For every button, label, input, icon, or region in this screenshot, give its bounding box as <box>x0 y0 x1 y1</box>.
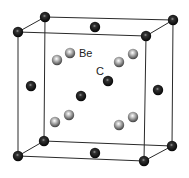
carbon-atom-corner-back-bottom-right <box>167 141 177 151</box>
carbon-atom-corner-front-bottom-right <box>139 156 149 166</box>
carbon-atom-corner-front-top-left <box>13 27 23 37</box>
beryllium-atom-be-upper-right-front <box>114 57 124 67</box>
label-be: Be <box>79 47 92 59</box>
carbon-atom-face-top <box>90 22 100 32</box>
carbon-atom-face-bottom <box>90 148 100 158</box>
carbon-atom-face-front <box>103 76 113 86</box>
beryllium-atom-be-upper-right-back <box>128 49 138 59</box>
cube-edge <box>144 36 146 161</box>
cube-edge <box>18 32 146 36</box>
crystal-structure-diagram: Be C <box>0 0 189 178</box>
carbon-atom-corner-front-bottom-left <box>13 151 23 161</box>
carbon-atom-face-left <box>26 81 36 91</box>
beryllium-atom-be-upper-left-back <box>65 48 75 58</box>
beryllium-atom-be-lower-right-front <box>114 120 124 130</box>
beryllium-atom-be-lower-left-front <box>50 117 60 127</box>
cube-edge <box>172 20 173 146</box>
beryllium-atom-be-lower-left-back <box>64 110 74 120</box>
carbon-atom-corner-front-top-right <box>141 31 151 41</box>
carbon-atom-corner-back-top-left <box>40 12 50 22</box>
cube-edge <box>44 141 172 146</box>
carbon-atom-face-back <box>76 91 86 101</box>
cube-edge <box>44 17 45 141</box>
beryllium-atoms <box>50 48 138 130</box>
unit-cell-svg: Be C <box>0 0 189 178</box>
cube-edge <box>18 156 144 161</box>
cube-edge <box>45 17 173 20</box>
beryllium-atom-be-upper-left-front <box>52 55 62 65</box>
carbon-atom-corner-back-top-right <box>168 15 178 25</box>
beryllium-atom-be-lower-right-back <box>128 112 138 122</box>
carbon-atom-corner-back-bottom-left <box>39 136 49 146</box>
carbon-atom-face-right <box>153 85 163 95</box>
label-c: C <box>96 65 104 77</box>
